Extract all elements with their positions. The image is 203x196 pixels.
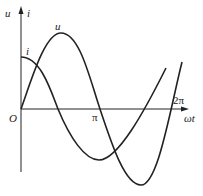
curve-label-u: u: [55, 20, 61, 32]
waveform-diagram: u i u i O π 2π ωt: [0, 0, 203, 196]
y-label-u: u: [5, 7, 11, 19]
curve-label-i: i: [26, 45, 29, 57]
tick-2pi: 2π: [173, 94, 185, 106]
x-axis-arrow-icon: [181, 107, 189, 112]
origin-label: O: [9, 112, 17, 124]
tick-pi: π: [92, 111, 98, 123]
y-axis-arrow-icon: [19, 6, 24, 14]
y-label-i: i: [27, 7, 30, 19]
x-label-omega-t: ωt: [184, 112, 196, 124]
